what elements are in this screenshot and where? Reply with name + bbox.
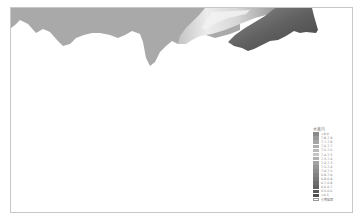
legend-swatch-icon [313, 173, 319, 177]
legend-swatch-icon [313, 157, 319, 161]
legend-swatch-icon [313, 194, 319, 198]
legend-swatch-icon [313, 136, 319, 140]
legend-swatch-icon [313, 185, 319, 189]
legend-swatch-icon [313, 132, 319, 136]
legend-swatch-icon [313, 149, 319, 153]
terrain-profile-plot [0, 0, 359, 222]
legend-swatch-icon [313, 161, 319, 165]
legend-swatch-icon [313, 190, 319, 194]
legend-swatch-icon [313, 177, 319, 181]
legend-label: 小期容器 [321, 198, 333, 202]
chart-legend: 水蒸汽 >8.07.8-7.97.7-7.87.6-7.77.5-7.67.4-… [313, 127, 351, 202]
legend-swatch-icon [313, 181, 319, 185]
legend-swatch-icon [313, 198, 319, 202]
legend-swatch-icon [313, 165, 319, 169]
legend-entry: 小期容器 [313, 198, 351, 202]
legend-swatch-icon [313, 145, 319, 149]
legend-swatch-icon [313, 140, 319, 144]
legend-swatch-icon [313, 169, 319, 173]
legend-swatch-icon [313, 153, 319, 157]
